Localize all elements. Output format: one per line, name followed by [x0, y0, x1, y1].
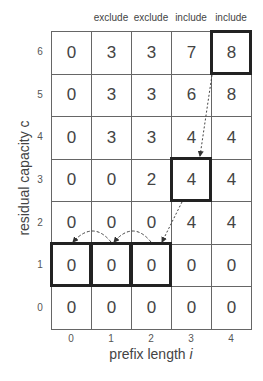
table-cell: 8: [212, 32, 252, 75]
table-cell: 6: [172, 75, 212, 118]
table-cell: 4: [212, 117, 252, 160]
table-cell: 0: [212, 287, 252, 330]
table-cell: 0: [92, 160, 132, 203]
row-tick: 6: [34, 46, 46, 57]
row-tick: 3: [34, 174, 46, 185]
column-annotation: exclude: [131, 12, 171, 23]
table-cell: 0: [132, 245, 172, 288]
dp-table: 0 3 3 7 8 0 3 3 6 8 0 3 3 4 4 0 0 2 4 4 …: [51, 31, 251, 330]
table-cell: 0: [172, 245, 212, 288]
col-tick: 0: [51, 333, 91, 344]
table-cell: 3: [132, 32, 172, 75]
x-axis-label-text: prefix length: [109, 346, 185, 362]
table-cell: 0: [52, 32, 92, 75]
table-cell: 2: [132, 160, 172, 203]
table-cell: 4: [172, 202, 212, 245]
column-annotation: exclude: [91, 12, 131, 23]
row-tick: 2: [34, 217, 46, 228]
x-axis-label: prefix length i: [51, 346, 251, 362]
table-cell: 3: [132, 75, 172, 118]
col-tick: 3: [171, 333, 211, 344]
row-tick: 1: [34, 259, 46, 270]
table-cell: 0: [92, 245, 132, 288]
table-cell: 3: [132, 117, 172, 160]
x-axis-variable: i: [190, 346, 193, 362]
table-cell: 3: [92, 117, 132, 160]
row-tick: 0: [34, 302, 46, 313]
table-cell: 0: [92, 202, 132, 245]
row-tick: 4: [34, 131, 46, 142]
table-cell: 0: [52, 287, 92, 330]
table-cell: 0: [52, 117, 92, 160]
table-cell: 0: [132, 287, 172, 330]
col-tick: 4: [211, 333, 251, 344]
table-cell: 0: [52, 160, 92, 203]
table-cell: 0: [172, 287, 212, 330]
col-tick: 1: [91, 333, 131, 344]
col-tick: 2: [131, 333, 171, 344]
column-annotation: include: [211, 12, 251, 23]
table-cell: 4: [172, 160, 212, 203]
table-cell: 4: [212, 202, 252, 245]
table-cell: 4: [172, 117, 212, 160]
table-cell: 3: [92, 75, 132, 118]
table-cell: 3: [92, 32, 132, 75]
table-cell: 4: [212, 160, 252, 203]
y-axis-label: residual capacity c: [16, 120, 32, 235]
table-cell: 0: [52, 202, 92, 245]
table-cell: 8: [212, 75, 252, 118]
table-cell: 7: [172, 32, 212, 75]
table-cell: 0: [52, 245, 92, 288]
table-cell: 0: [132, 202, 172, 245]
table-cell: 0: [92, 287, 132, 330]
column-annotation: include: [171, 12, 211, 23]
row-tick: 5: [34, 89, 46, 100]
table-cell: 0: [52, 75, 92, 118]
table-cell: 0: [212, 245, 252, 288]
